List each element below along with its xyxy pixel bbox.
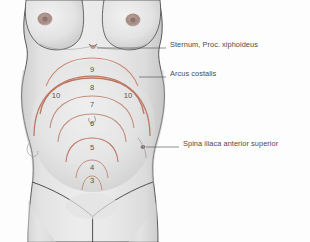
illustration-root: Sternum, Proc. xiphoideus Arcus costalis… — [0, 0, 310, 242]
label-sternum: Sternum, Proc. xiphoideus — [170, 41, 258, 48]
nipple-left — [42, 17, 47, 22]
fundal-number-5: 5 — [90, 144, 94, 152]
fundal-number-9: 9 — [90, 66, 94, 74]
fundal-number-6: 6 — [90, 120, 94, 128]
nipple-right — [130, 18, 135, 23]
anatomy-illustration — [0, 0, 310, 242]
fundal-number-10-left: 10 — [52, 92, 60, 100]
fundal-number-10-right: 10 — [124, 92, 132, 100]
fundal-number-7: 7 — [90, 101, 94, 109]
fundal-number-3: 3 — [90, 177, 94, 185]
xiphoid-mark — [90, 45, 95, 49]
fundal-number-4: 4 — [90, 164, 94, 172]
mons-pubis — [66, 193, 118, 219]
label-spina-iliaca: Spina iliaca anterior superior — [183, 140, 278, 147]
fundal-number-8: 8 — [90, 84, 94, 92]
label-arcus-costalis: Arcus costalis — [170, 70, 216, 77]
